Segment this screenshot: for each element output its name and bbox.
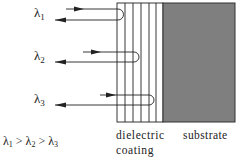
label-lambda-2: λ2 [34, 48, 45, 65]
arrow-out-icon [55, 18, 66, 23]
substrate-label: substrate [183, 129, 227, 141]
coating-label-line1: dielectric [116, 129, 165, 141]
beam-lambda-3 [55, 93, 154, 108]
coating-label-line2: coating [116, 144, 154, 157]
dielectric-coating-diagram: λ1 λ2 λ3 λ1 > λ2 > λ3 dielectric coating… [0, 0, 243, 163]
arrow-out-icon [55, 103, 66, 108]
label-lambda-3: λ3 [34, 91, 45, 108]
dielectric-coating [117, 3, 163, 122]
label-lambda-1: λ1 [34, 5, 45, 22]
arrow-in-icon [91, 50, 101, 55]
beam-lambda-1 [55, 7, 124, 23]
arrow-in-icon [106, 93, 116, 98]
substrate-block [163, 3, 235, 122]
beam-path [55, 95, 154, 105]
arrow-out-icon [55, 60, 66, 65]
wavelength-relation: λ1 > λ2 > λ3 [3, 134, 58, 149]
arrow-in-icon [74, 7, 84, 12]
beam-path [55, 52, 139, 62]
beam-lambda-2 [55, 50, 139, 65]
